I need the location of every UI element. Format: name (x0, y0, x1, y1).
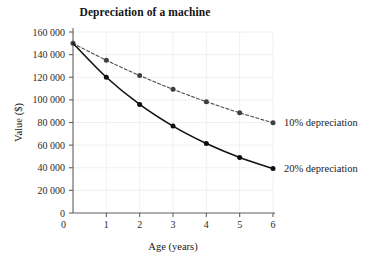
data-point (204, 99, 209, 104)
data-point (104, 58, 109, 63)
data-point (171, 124, 176, 129)
y-axis-tick-labels: 020 00040 00060 00080 000100 000120 0001… (33, 27, 66, 219)
data-point (271, 120, 276, 125)
x-tick-label: 3 (171, 219, 176, 230)
data-point (137, 102, 142, 107)
x-axis-ticks (106, 213, 273, 217)
x-tick-label: 0 (61, 219, 66, 230)
series-label-20-percent: 20% depreciation (284, 163, 359, 174)
data-point (237, 155, 242, 160)
x-axis-tick-labels: 0123456 (61, 219, 276, 230)
y-axis-ticks (69, 32, 73, 213)
y-tick-label: 160 000 (33, 27, 66, 38)
y-tick-label: 100 000 (33, 94, 66, 105)
data-point (204, 141, 209, 146)
y-tick-label: 0 (60, 208, 65, 219)
y-tick-label: 40 000 (38, 162, 66, 173)
series-inline-labels: 10% depreciation20% depreciation (284, 117, 359, 174)
data-point (104, 75, 109, 80)
x-tick-label: 5 (237, 219, 242, 230)
chart-container: Depreciation of a machine 020 00040 0006… (0, 0, 381, 261)
y-tick-label: 80 000 (38, 117, 66, 128)
x-tick-label: 1 (104, 219, 109, 230)
x-tick-label: 2 (137, 219, 142, 230)
y-axis-title: Value ($) (13, 103, 25, 142)
x-tick-label: 4 (204, 219, 209, 230)
depreciation-line-chart: 020 00040 00060 00080 000100 000120 0001… (0, 0, 381, 261)
series-label-10-percent: 10% depreciation (284, 117, 359, 128)
data-point (271, 166, 276, 171)
x-tick-label: 6 (271, 219, 276, 230)
y-tick-label: 140 000 (33, 49, 66, 60)
data-point (237, 110, 242, 115)
data-point (137, 73, 142, 78)
y-tick-label: 120 000 (33, 72, 66, 83)
data-point (171, 87, 176, 92)
y-tick-label: 60 000 (38, 140, 66, 151)
x-axis-title: Age (years) (148, 241, 198, 253)
y-tick-label: 20 000 (38, 185, 66, 196)
